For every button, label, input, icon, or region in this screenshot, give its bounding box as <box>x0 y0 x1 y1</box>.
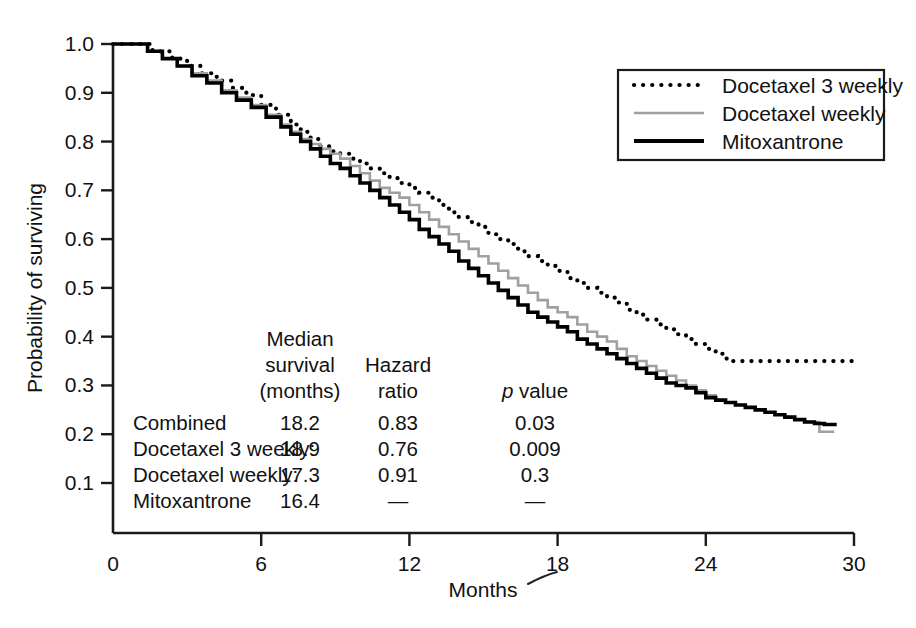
y-axis-title: Probability of surviving <box>23 183 46 393</box>
stats-rows: Combined18.20.830.03Docetaxel 3 weekly:1… <box>133 411 561 512</box>
x-tick-label: 6 <box>255 552 267 575</box>
y-axis-ticks <box>101 44 113 483</box>
y-axis-tick-labels: 0.10.20.30.40.50.60.70.80.91.0 <box>65 32 95 494</box>
x-axis-ticks <box>261 533 854 546</box>
stats-median-docetaxel-weekly: 17.3 <box>280 463 320 486</box>
stats-header-months: (months) <box>260 379 341 402</box>
stats-pvalue-combined: 0.03 <box>515 411 555 434</box>
pvalue-italic-p: p <box>501 379 513 402</box>
y-tick-label: 0.3 <box>65 373 94 396</box>
stats-header-ratio: ratio <box>378 379 418 402</box>
stats-pvalue-docetaxel-3-weekly: 0.009 <box>509 437 560 460</box>
legend-label-mitoxantrone: Mitoxantrone <box>722 130 843 153</box>
stats-table: Median survival (months) Hazard ratio p … <box>133 327 568 512</box>
stats-median-docetaxel-3-weekly: 18.9 <box>280 437 320 460</box>
stats-header-pvalue: p value <box>501 379 568 402</box>
stats-pvalue-mitoxantrone: — <box>525 489 546 512</box>
y-tick-label: 0.4 <box>65 325 95 348</box>
y-tick-label: 0.2 <box>65 422 94 445</box>
legend-label-docetaxel-3-weekly: Docetaxel 3 weekly <box>722 74 903 97</box>
stats-header-median: Median <box>266 327 333 350</box>
stats-header-survival: survival <box>265 353 335 376</box>
y-tick-label: 0.6 <box>65 227 94 250</box>
x-axis-tick-labels: 0612182430 <box>107 552 866 575</box>
plot-canvas: 0.10.20.30.40.50.60.70.80.91.0 061218243… <box>0 0 916 628</box>
survival-chart-figure: 0.10.20.30.40.50.60.70.80.91.0 061218243… <box>0 0 916 628</box>
x-tick-label: 0 <box>107 552 119 575</box>
stats-hazard-mitoxantrone: — <box>388 489 409 512</box>
y-tick-label: 0.8 <box>65 130 94 153</box>
y-tick-label: 0.5 <box>65 276 94 299</box>
x-axis-title: Months <box>449 578 518 601</box>
x-tick-label: 12 <box>398 552 421 575</box>
y-tick-label: 1.0 <box>65 32 94 55</box>
stats-row-label-mitoxantrone: Mitoxantrone <box>133 489 252 512</box>
x-tick-label: 30 <box>842 552 865 575</box>
legend: Docetaxel 3 weeklyDocetaxel weeklyMitoxa… <box>618 70 903 160</box>
legend-label-docetaxel-weekly: Docetaxel weekly <box>722 102 886 125</box>
pen-mark-artifact <box>528 572 557 584</box>
y-tick-label: 0.9 <box>65 81 94 104</box>
stats-row-label-combined: Combined <box>133 411 226 434</box>
stats-hazard-docetaxel-weekly: 0.91 <box>378 463 418 486</box>
stats-hazard-combined: 0.83 <box>378 411 418 434</box>
stats-pvalue-docetaxel-weekly: 0.3 <box>521 463 550 486</box>
stats-row-label-docetaxel-weekly: Docetaxel weekly: <box>133 463 298 486</box>
stats-median-mitoxantrone: 16.4 <box>280 489 320 512</box>
y-tick-label: 0.1 <box>65 471 94 494</box>
stats-hazard-docetaxel-3-weekly: 0.76 <box>378 437 418 460</box>
x-tick-label: 24 <box>694 552 718 575</box>
pvalue-rest: value <box>513 379 568 402</box>
stats-median-combined: 18.2 <box>280 411 320 434</box>
stats-header-hazard: Hazard <box>365 353 431 376</box>
y-tick-label: 0.7 <box>65 178 94 201</box>
